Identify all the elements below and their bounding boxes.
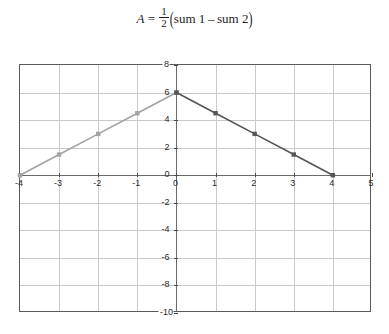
x-axis-tick-label: -3 bbox=[54, 178, 62, 188]
y-tick-mark bbox=[174, 313, 178, 314]
series-data-point bbox=[174, 90, 178, 94]
x-axis-tick-label: -4 bbox=[15, 178, 23, 188]
formula-term-two: sum 2 bbox=[217, 11, 248, 26]
x-axis-tick-label: 0 bbox=[173, 178, 178, 188]
y-axis-tick-label: 8 bbox=[163, 59, 170, 69]
x-axis-tick-label: 5 bbox=[368, 178, 373, 188]
chart-figure: A = 1 2 (sum 1 – sum 2) -4-3-2-101234586… bbox=[0, 0, 389, 334]
fraction-denominator: 2 bbox=[159, 17, 169, 29]
y-axis-tick-label: -4 bbox=[153, 224, 169, 234]
chart-title-formula: A = 1 2 (sum 1 – sum 2) bbox=[0, 6, 389, 29]
formula-fraction-one-half: 1 2 bbox=[159, 6, 169, 29]
series-data-point bbox=[252, 132, 256, 136]
plot-area bbox=[19, 64, 371, 312]
y-axis-tick-label: -2 bbox=[153, 197, 169, 207]
series-data-point bbox=[135, 111, 139, 115]
formula-variable: A bbox=[137, 11, 145, 26]
x-axis-tick-label: -2 bbox=[93, 178, 101, 188]
series-group bbox=[20, 65, 372, 313]
x-tick-mark bbox=[372, 173, 373, 177]
fraction-numerator: 1 bbox=[159, 6, 169, 17]
series-data-point bbox=[292, 152, 296, 156]
y-axis-tick-label: 2 bbox=[153, 142, 169, 152]
y-axis-tick-label: 6 bbox=[153, 87, 169, 97]
formula-equals: = bbox=[148, 11, 155, 26]
series-data-point bbox=[18, 173, 22, 177]
x-axis-tick-label: 1 bbox=[212, 178, 217, 188]
series-data-point bbox=[96, 132, 100, 136]
formula-minus: – bbox=[208, 11, 215, 26]
formula-open-paren: ( bbox=[170, 9, 174, 28]
x-axis-tick-label: -1 bbox=[132, 178, 140, 188]
y-axis-tick-label: -10 bbox=[159, 307, 174, 317]
series-data-point bbox=[213, 111, 217, 115]
x-axis-tick-label: 2 bbox=[251, 178, 256, 188]
y-axis-tick-label: -6 bbox=[153, 252, 169, 262]
y-axis-tick-label: 4 bbox=[153, 114, 169, 124]
x-axis-tick-label: 3 bbox=[290, 178, 295, 188]
formula-term-one: sum 1 bbox=[174, 11, 205, 26]
y-axis-tick-label: -8 bbox=[153, 279, 169, 289]
y-axis-tick-label: 0 bbox=[153, 169, 169, 179]
x-axis-tick-label: 4 bbox=[329, 178, 334, 188]
series-data-point bbox=[57, 152, 61, 156]
formula-close-paren: ) bbox=[248, 9, 252, 28]
series-data-point bbox=[331, 173, 335, 177]
